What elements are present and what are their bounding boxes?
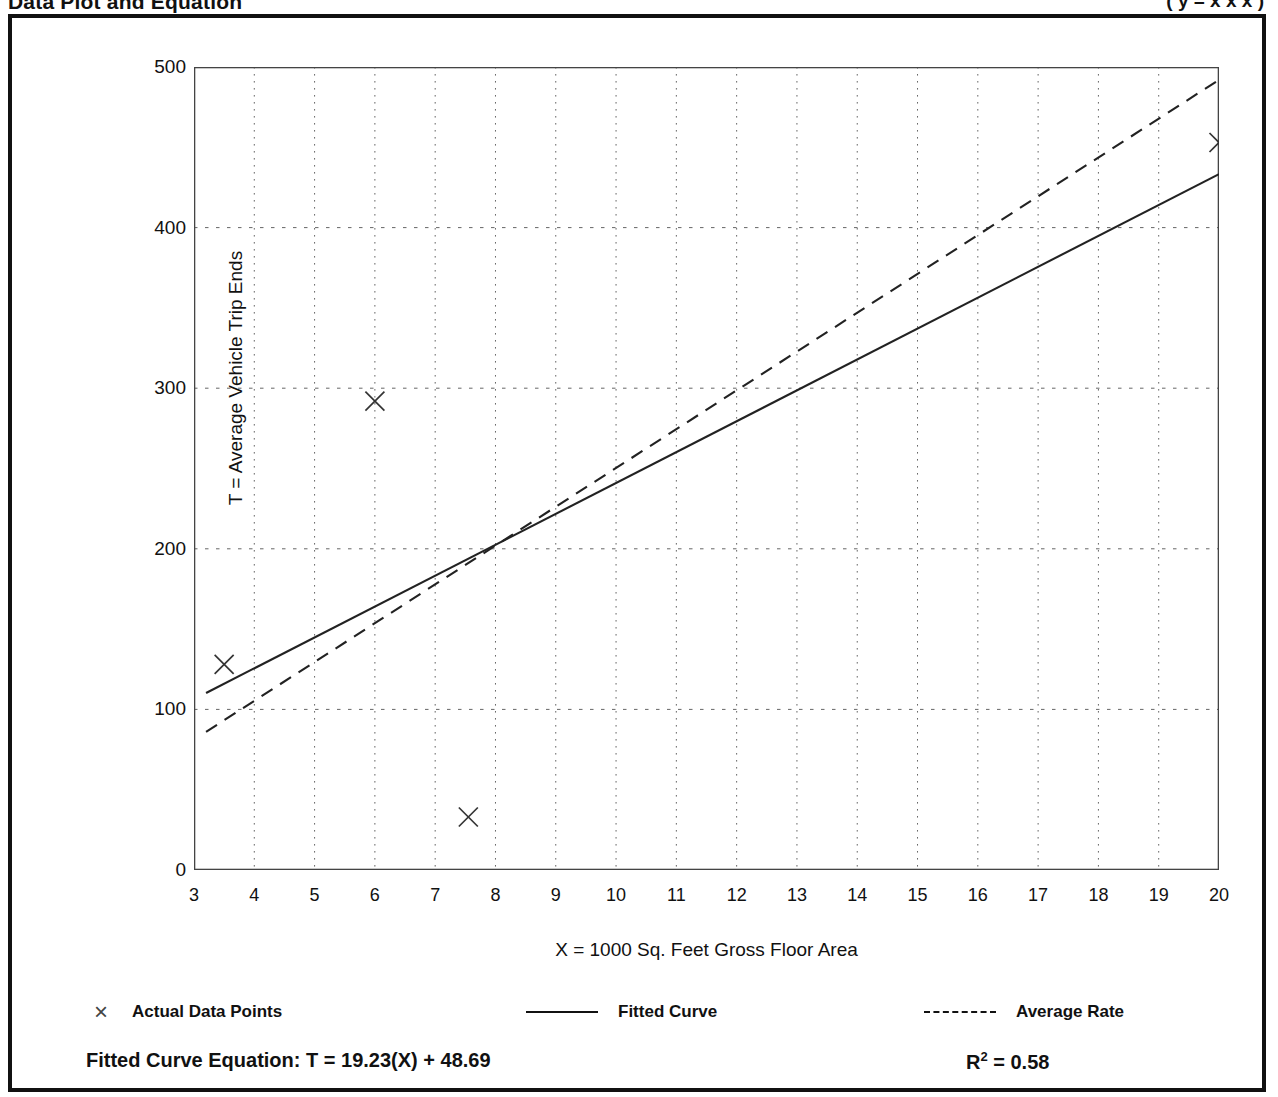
legend-label: Average Rate	[1016, 1002, 1124, 1022]
series-line-average-rate	[206, 80, 1219, 732]
page-title: Data Plot and Equation	[8, 0, 242, 14]
x-tick-label: 10	[606, 885, 626, 906]
x-tick-label: 5	[310, 885, 320, 906]
x-axis-title: X = 1000 Sq. Feet Gross Floor Area	[194, 939, 1219, 961]
legend-item-average-rate: Average Rate	[924, 995, 1124, 1029]
x-tick-label: 11	[667, 885, 686, 906]
data-point-marker	[365, 392, 384, 411]
chart-legend: × Actual Data Points Fitted Curve Averag…	[84, 995, 1244, 1029]
r2-prefix: R	[966, 1051, 980, 1073]
chart-canvas	[194, 67, 1219, 870]
figure-frame: T = Average Vehicle Trip Ends X = 1000 S…	[8, 14, 1266, 1092]
plot-frame	[195, 68, 1219, 870]
x-tick-label: 20	[1209, 885, 1229, 906]
plot-area: T = Average Vehicle Trip Ends X = 1000 S…	[194, 67, 1219, 870]
legend-item-fitted-curve: Fitted Curve	[526, 995, 717, 1029]
r-squared-value: R2 = 0.58	[966, 1049, 1049, 1074]
dashed-line-icon	[924, 1002, 996, 1022]
data-point-marker	[215, 655, 234, 674]
y-tick-label: 300	[154, 377, 186, 399]
x-tick-label: 14	[847, 885, 867, 906]
page-title-right: ( y = x x x )	[1166, 0, 1264, 12]
series-line-fitted-curve	[206, 174, 1219, 693]
x-tick-label: 19	[1149, 885, 1169, 906]
x-tick-label: 7	[430, 885, 440, 906]
data-point-marker	[459, 808, 478, 827]
x-tick-label: 17	[1028, 885, 1048, 906]
x-tick-label: 8	[490, 885, 500, 906]
x-tick-label: 6	[370, 885, 380, 906]
y-tick-label: 200	[154, 538, 186, 560]
y-tick-label: 400	[154, 217, 186, 239]
x-tick-label: 16	[968, 885, 988, 906]
x-tick-label: 9	[551, 885, 561, 906]
y-tick-label: 500	[154, 56, 186, 78]
legend-label: Fitted Curve	[618, 1002, 717, 1022]
equation-row: Fitted Curve Equation: T = 19.23(X) + 48…	[86, 1049, 1246, 1089]
legend-item-actual-data-points: × Actual Data Points	[84, 995, 282, 1029]
x-tick-label: 3	[189, 885, 199, 906]
x-tick-label: 4	[249, 885, 259, 906]
x-tick-label: 12	[727, 885, 747, 906]
x-tick-label: 18	[1088, 885, 1108, 906]
y-tick-label: 0	[175, 859, 186, 881]
y-tick-label: 100	[154, 698, 186, 720]
legend-label: Actual Data Points	[132, 1002, 282, 1022]
r2-number: = 0.58	[988, 1051, 1050, 1073]
x-marker-icon: ×	[84, 1002, 118, 1022]
solid-line-icon	[526, 1002, 598, 1022]
x-tick-label: 13	[787, 885, 807, 906]
fitted-curve-equation: Fitted Curve Equation: T = 19.23(X) + 48…	[86, 1049, 491, 1072]
x-tick-label: 15	[908, 885, 928, 906]
r2-exponent: 2	[980, 1049, 987, 1064]
data-point-marker	[1210, 133, 1220, 152]
figure-page: Data Plot and Equation ( y = x x x ) T =…	[0, 0, 1278, 1097]
